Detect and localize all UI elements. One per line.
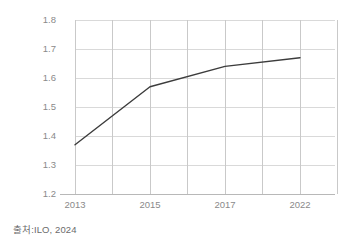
y-tick-label-2: 1.4 xyxy=(43,130,56,141)
x-tick-label-2017: 2017 xyxy=(214,199,235,210)
x-tick-label-2013: 2013 xyxy=(64,199,85,210)
source-note: 출처:ILO, 2024 xyxy=(13,222,77,236)
y-tick-label-3: 1.5 xyxy=(43,101,56,112)
y-tick-label-4: 1.6 xyxy=(43,72,56,83)
y-tick-label-5: 1.7 xyxy=(43,43,56,54)
y-tick-label-0: 1.2 xyxy=(43,188,56,199)
x-tick-labels: 2013 2015 2017 2022 xyxy=(64,199,310,210)
y-tick-label-1: 1.3 xyxy=(43,159,56,170)
y-tick-label-6: 1.8 xyxy=(43,14,56,25)
y-tick-labels: 1.8 1.7 1.6 1.5 1.4 1.3 1.2 xyxy=(43,14,56,199)
chart-canvas: 1.8 1.7 1.6 1.5 1.4 1.3 1.2 2013 2015 20… xyxy=(0,0,351,246)
y-gridlines xyxy=(75,21,335,166)
x-tick-label-2015: 2015 xyxy=(139,199,160,210)
line-chart-figure: 1.8 1.7 1.6 1.5 1.4 1.3 1.2 2013 2015 20… xyxy=(0,0,351,246)
x-tick-label-2022: 2022 xyxy=(289,199,310,210)
